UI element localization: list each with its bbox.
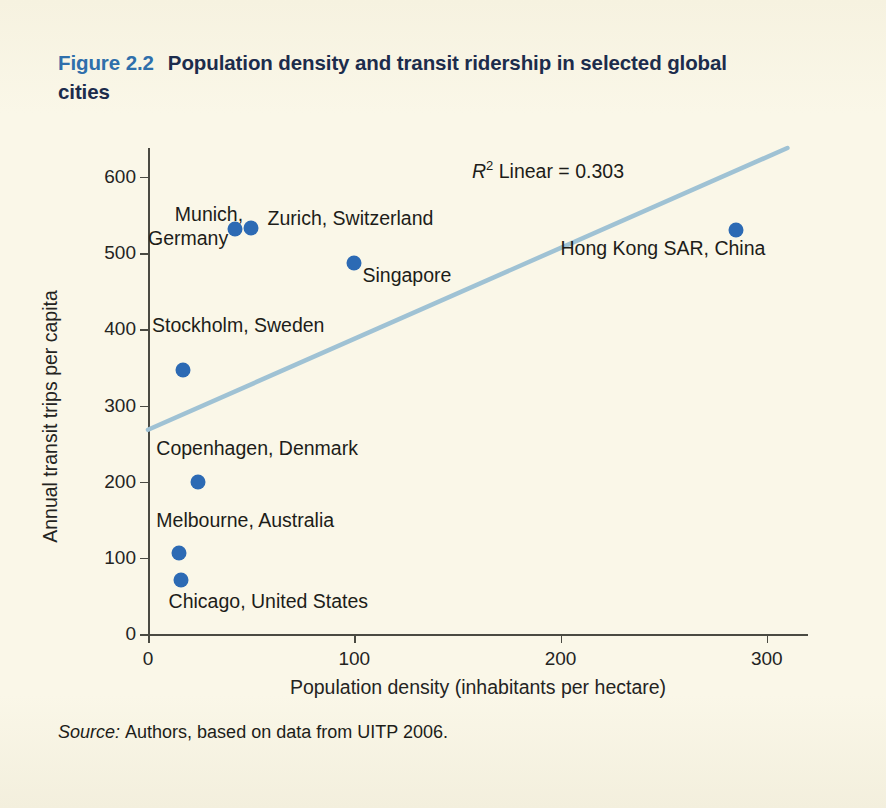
- data-point[interactable]: [347, 256, 362, 271]
- x-axis-tick: [148, 634, 150, 643]
- y-axis-tick-label: 0: [76, 623, 136, 645]
- y-axis-tick-label: 600: [76, 166, 136, 188]
- x-axis-tick-label: 100: [314, 648, 394, 670]
- x-axis-tick-label: 0: [108, 648, 188, 670]
- x-axis-tick-label: 300: [727, 648, 807, 670]
- scatter-chart: 01002003004005006000100200300 Population…: [0, 0, 886, 808]
- x-axis-tick: [354, 634, 356, 643]
- y-axis-title: Annual transit trips per capita: [39, 257, 62, 577]
- source-text: Authors, based on data from UITP 2006.: [125, 722, 448, 742]
- x-axis-tick: [561, 634, 563, 643]
- data-point-label: Singapore: [363, 264, 452, 287]
- r-squared-text: Linear = 0.303: [493, 160, 624, 182]
- data-point-label: Germany: [148, 227, 228, 250]
- data-point[interactable]: [244, 221, 259, 236]
- data-point[interactable]: [171, 545, 186, 560]
- y-axis-tick-label: 400: [76, 318, 136, 340]
- data-point-label: Stockholm, Sweden: [152, 314, 324, 337]
- x-axis-tick: [767, 634, 769, 643]
- data-point[interactable]: [174, 572, 189, 587]
- source-note: Source: Authors, based on data from UITP…: [58, 722, 448, 743]
- x-axis-line: [148, 634, 808, 636]
- x-axis-tick-label: 200: [521, 648, 601, 670]
- data-point[interactable]: [728, 222, 743, 237]
- plot-area: Munich,GermanyZurich, SwitzerlandSingapo…: [148, 148, 808, 634]
- y-axis-tick-label: 100: [76, 547, 136, 569]
- data-point-label: Hong Kong SAR, China: [561, 237, 766, 260]
- data-point-label: Melbourne, Australia: [156, 509, 334, 532]
- figure-page: Figure 2.2Population density and transit…: [0, 0, 886, 808]
- x-axis-title: Population density (inhabitants per hect…: [148, 676, 808, 699]
- r-symbol: R: [472, 160, 486, 182]
- data-point-label: Copenhagen, Denmark: [156, 437, 358, 460]
- source-label: Source:: [58, 722, 120, 742]
- y-axis-tick-label: 300: [76, 395, 136, 417]
- r-squared-annotation: R2 Linear = 0.303: [472, 158, 624, 183]
- y-axis-tick-label: 200: [76, 471, 136, 493]
- data-point-label: Chicago, United States: [169, 590, 368, 613]
- y-axis-tick-label: 500: [76, 242, 136, 264]
- data-point-label: Munich,: [175, 203, 243, 226]
- data-point[interactable]: [190, 474, 205, 489]
- data-point[interactable]: [176, 362, 191, 377]
- data-point-label: Zurich, Switzerland: [268, 207, 434, 230]
